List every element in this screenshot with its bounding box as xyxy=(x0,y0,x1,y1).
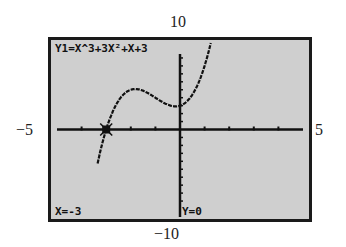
xmax-label: 5 xyxy=(315,122,323,138)
function-curve xyxy=(98,43,211,164)
x-readout: X=-3 xyxy=(55,206,82,217)
ymax-label: 10 xyxy=(170,14,186,30)
calculator-screen: Y1=X^3+3X²+X+3 X=-3 Y=0 xyxy=(48,37,312,222)
equation-text: Y1=X^3+3X²+X+3 xyxy=(55,43,148,54)
graph-plot xyxy=(51,40,309,219)
y-readout: Y=0 xyxy=(182,206,202,217)
ymin-label: −10 xyxy=(154,226,179,242)
xmin-label: −5 xyxy=(16,122,33,138)
